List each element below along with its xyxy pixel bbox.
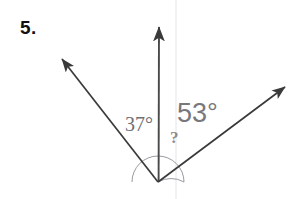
- angle-label-37-degrees: 37°: [125, 114, 153, 134]
- angle-label-53-degrees: 53°: [177, 100, 218, 127]
- problem-number-label: 5.: [20, 18, 37, 37]
- angle-diagram-svg: [0, 0, 297, 199]
- unknown-angle-question-mark: ?: [170, 129, 179, 146]
- angle-figure-canvas: 5. 37° 53° ?: [0, 0, 297, 199]
